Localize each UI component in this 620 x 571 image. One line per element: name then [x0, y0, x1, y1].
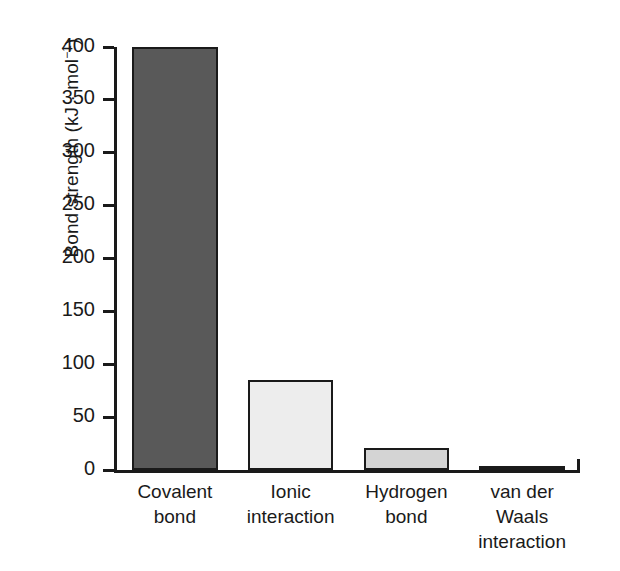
category-label-hydrogen-bond: Hydrogen bond — [349, 479, 465, 529]
bond-strength-bar-chart: Bond strength (kJ · mol−1) 0501001502002… — [0, 0, 620, 571]
bar-hydrogen-bond — [364, 448, 450, 470]
y-tick-label-250: 250 — [35, 192, 95, 215]
category-label-covalent-bond: Covalent bond — [117, 479, 233, 529]
x-axis-line — [114, 470, 580, 473]
y-tick-label-0: 0 — [35, 457, 95, 480]
bar-ionic-interaction — [248, 380, 334, 470]
y-tick-400: 400 — [103, 46, 114, 49]
bar-covalent-bond — [132, 47, 218, 470]
y-tick-label-100: 100 — [35, 351, 95, 374]
y-tick-150: 150 — [103, 310, 114, 313]
y-tick-100: 100 — [103, 363, 114, 366]
bar-van-der-waals-interaction — [479, 466, 565, 470]
y-tick-50: 50 — [103, 416, 114, 419]
y-axis-line — [114, 47, 117, 470]
category-label-ionic-interaction: Ionic interaction — [233, 479, 349, 529]
y-tick-label-350: 350 — [35, 86, 95, 109]
y-tick-200: 200 — [103, 257, 114, 260]
y-tick-label-150: 150 — [35, 298, 95, 321]
y-tick-label-300: 300 — [35, 139, 95, 162]
y-tick-350: 350 — [103, 98, 114, 101]
y-tick-label-200: 200 — [35, 245, 95, 268]
plot-area: 050100150200250300350400 Covalent bondIo… — [117, 47, 580, 470]
y-tick-300: 300 — [103, 151, 114, 154]
y-tick-label-50: 50 — [35, 404, 95, 427]
x-axis-end-tick — [577, 459, 580, 473]
y-tick-label-400: 400 — [35, 34, 95, 57]
y-tick-0: 0 — [103, 469, 114, 472]
category-label-van-der-waals-interaction: van der Waals interaction — [464, 479, 580, 554]
y-tick-250: 250 — [103, 204, 114, 207]
